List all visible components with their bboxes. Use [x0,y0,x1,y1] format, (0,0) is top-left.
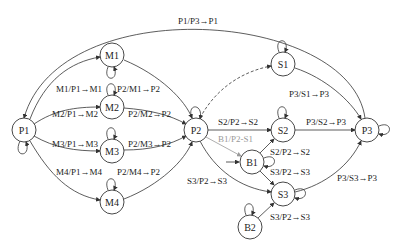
edge-p2-s1 [200,66,271,118]
node-m2: M2 [100,95,124,119]
label-p3-s1: P3/S1→P3 [289,89,330,99]
loop-p2 [191,107,201,119]
svg-text:P3: P3 [362,125,373,136]
node-s2: S2 [271,118,295,142]
loop-s2 [278,107,286,118]
label-p3-s2: P3/S2→P3 [306,117,347,127]
loop-m1 [107,67,115,78]
loop-b2 [245,204,253,215]
node-p2: P2 [184,118,208,142]
loop-m4 [107,179,115,190]
node-m3: M3 [100,139,124,163]
label-m2-p1: M2/P1→M2 [52,109,98,119]
svg-text:P2: P2 [191,125,202,136]
svg-text:M2: M2 [105,102,119,113]
loop-p1 [18,141,27,154]
label-m1-p1: M1/P1→M1 [56,84,102,94]
svg-text:M3: M3 [105,146,119,157]
label-m4-p1: M4/P1→M4 [56,167,103,177]
svg-text:M1: M1 [105,50,119,61]
label-p3-s3: P3/S3→P3 [337,173,378,183]
loop-m2 [107,84,115,95]
label-p2-m2: P2/M2→P2 [128,109,171,119]
node-s3: S3 [271,182,295,206]
label-p2-m1: P2/M1→P2 [117,84,160,94]
label-b1-p2: B1/P2-S1 [218,134,253,144]
label-s3-p2-left: S3/P2→S3 [187,176,228,186]
label-s3-p2-b2: S3/P2→S3 [270,212,311,222]
label-p2-m3: P2/M3→P2 [128,139,171,149]
node-p3: P3 [355,118,379,142]
loop-m3 [107,128,115,139]
svg-text:S1: S1 [278,59,289,70]
svg-text:S2: S2 [278,125,289,136]
edge-p3-p1 [24,29,365,118]
label-s2-p2-b1: S2/P2→S2 [270,147,310,157]
node-b2: B2 [238,215,262,239]
node-p1: P1 [12,118,36,142]
svg-text:M4: M4 [105,197,119,208]
svg-text:B1: B1 [246,157,258,168]
svg-text:P1: P1 [19,125,30,136]
node-m4: M4 [100,190,124,214]
loop-b1 [264,157,275,167]
edge-labels: P1/P3→P1 M1/P1→M1 P2/M1→P2 M2/P1→M2 P2/M… [52,16,378,222]
node-m1: M1 [100,43,124,67]
state-diagram: P1/P3→P1 M1/P1→M1 P2/M1→P2 M2/P1→M2 P2/M… [0,0,405,249]
node-b1: B1 [240,150,264,174]
svg-text:S3: S3 [278,189,289,200]
label-p1-p3: P1/P3→P1 [178,16,218,26]
svg-text:B2: B2 [244,222,256,233]
label-p2-m4: P2/M4→P2 [117,167,160,177]
label-s2-p2: S2/P2→S2 [218,117,258,127]
loop-p3 [379,125,390,135]
label-s3-p2-b1: S3/P2→S3 [270,167,311,177]
label-m3-p1: M3/P1→M3 [52,139,99,149]
node-s1: S1 [271,52,295,76]
